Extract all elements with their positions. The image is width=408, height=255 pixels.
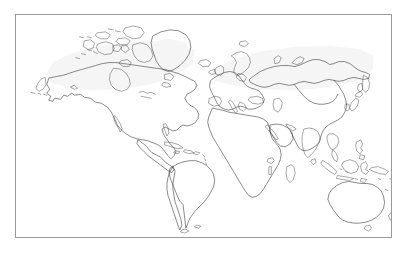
region-africa [208, 108, 295, 197]
coast-caspian-sea [273, 98, 282, 112]
coast-lake-victoria [267, 158, 274, 164]
coast-new-zealand-south [389, 212, 391, 221]
coast-hispaniola [184, 150, 194, 154]
coast-south-america-west [167, 167, 182, 230]
coast-indochina [327, 134, 339, 150]
coast-pacific-islands [379, 179, 391, 191]
coast-borneo [342, 160, 359, 174]
coast-india [302, 128, 320, 158]
coast-lake-tanganyika [269, 167, 271, 175]
coast-tierra-del-fuego [181, 229, 189, 233]
coast-melville-island [95, 32, 110, 39]
coast-sulawesi [361, 162, 369, 175]
coast-philippines-south [360, 155, 365, 160]
coast-sri-lanka [311, 159, 316, 165]
coast-south-america [169, 161, 215, 228]
region-indonesia [321, 140, 389, 183]
coast-aleutians [31, 92, 47, 95]
coast-alaska-peninsula [36, 77, 46, 91]
world-map-figure [16, 15, 391, 237]
coast-tasmania [365, 225, 372, 231]
coast-small-isles-indonesia [340, 169, 358, 180]
coast-java [337, 176, 354, 181]
coast-madagascar [286, 165, 295, 183]
coast-timor [361, 179, 367, 183]
coast-ellesmere-island [123, 26, 144, 39]
coast-japan [350, 98, 359, 111]
coast-malay-peninsula [332, 150, 338, 162]
coast-black-sea [248, 96, 263, 104]
coast-sumatra [321, 161, 337, 175]
coast-africa [208, 108, 282, 197]
coast-sakhalin [358, 83, 363, 92]
coast-japan-north [356, 91, 363, 97]
coast-great-lakes [139, 91, 155, 98]
coast-svalbard [240, 41, 249, 47]
coast-iceland [199, 60, 211, 67]
coast-new-guinea [370, 167, 389, 175]
coast-falkland-islands [195, 225, 201, 228]
coast-iberia [209, 96, 222, 106]
coast-cuba [165, 142, 183, 149]
coast-arctic-islets-b [80, 29, 121, 38]
map-frame [15, 14, 392, 238]
coast-nova-scotia [162, 82, 171, 87]
coast-jamaica [174, 151, 180, 154]
coast-italy [229, 100, 238, 113]
region-central-america [137, 140, 207, 173]
coast-lesser-antilles [203, 155, 207, 165]
region-australia [328, 179, 391, 232]
coast-philippines [356, 140, 363, 154]
coast-persian-gulf [286, 124, 296, 131]
coast-puerto-rico [194, 152, 200, 155]
coast-banks-island [84, 40, 95, 50]
coast-arabia [270, 124, 293, 147]
coast-australia [328, 182, 385, 224]
region-south-america [167, 161, 215, 233]
world-map-svg [16, 15, 391, 237]
page-root [0, 0, 408, 255]
